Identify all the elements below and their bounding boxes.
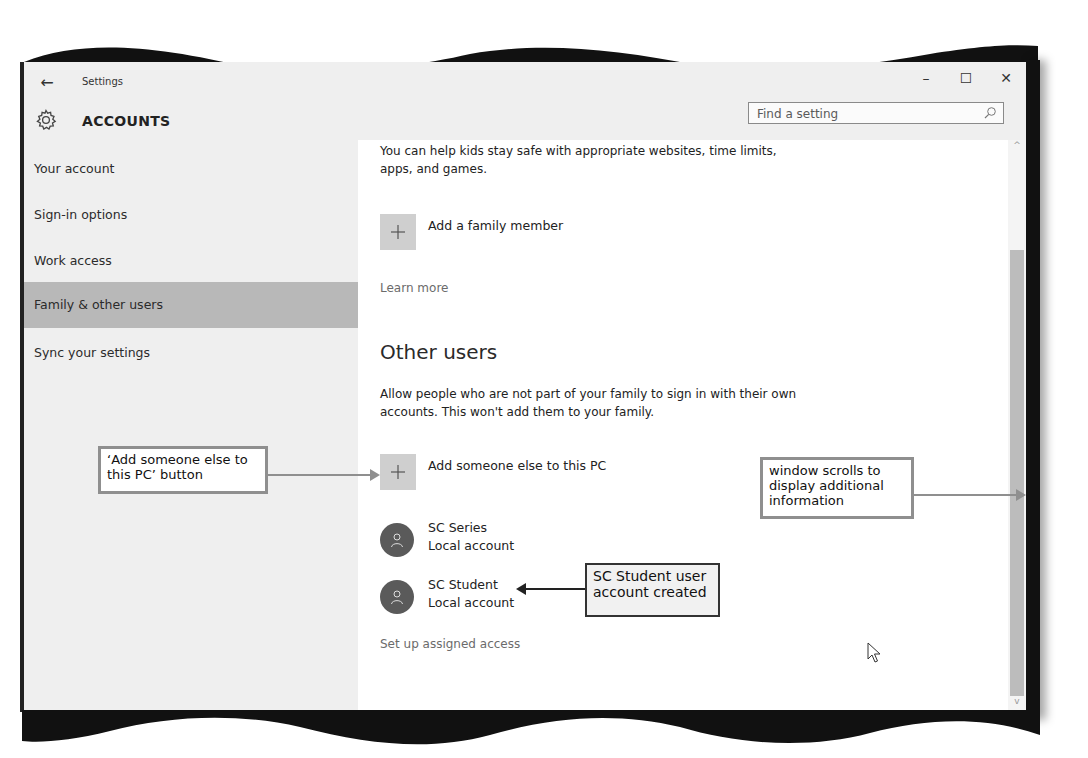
search-box[interactable]	[748, 102, 1004, 124]
add-family-member-button[interactable]	[380, 214, 416, 250]
user-name[interactable]: SC Series	[428, 520, 487, 535]
window-controls: – ☐ ✕	[906, 66, 1026, 90]
user-account-type: Local account	[428, 595, 514, 610]
maximize-icon: ☐	[960, 70, 973, 86]
title-bar: ← Settings – ☐ ✕	[24, 62, 1026, 102]
sidebar-item-work-access[interactable]: Work access	[24, 238, 358, 284]
settings-window: ← Settings – ☐ ✕ ACCOUNTS	[24, 62, 1026, 710]
user-icon	[389, 589, 405, 605]
close-button[interactable]: ✕	[986, 66, 1026, 90]
plus-icon	[390, 464, 406, 480]
arrow-head-icon	[370, 469, 380, 481]
search-input[interactable]	[755, 105, 979, 123]
section-title: ACCOUNTS	[82, 113, 170, 129]
close-icon: ✕	[1000, 70, 1012, 86]
vertical-scrollbar[interactable]: ^ v	[1008, 140, 1026, 710]
sidebar: Your account Sign-in options Work access…	[24, 140, 358, 710]
page-header: ACCOUNTS	[24, 102, 1026, 140]
add-someone-else-label[interactable]: Add someone else to this PC	[428, 458, 606, 473]
minimize-icon: –	[923, 70, 930, 86]
arrow-head-icon	[516, 583, 526, 595]
callout-window-scrolls: window scrolls to display additional inf…	[760, 457, 914, 519]
plus-icon	[390, 224, 406, 240]
avatar[interactable]	[380, 580, 414, 614]
add-someone-else-button[interactable]	[380, 454, 416, 490]
minimize-button[interactable]: –	[906, 66, 946, 90]
app-title: Settings	[82, 76, 123, 87]
main-content: You can help kids stay safe with appropr…	[358, 140, 1008, 710]
arrow-head-icon	[1016, 489, 1026, 501]
callout-arrow-line	[914, 494, 1018, 496]
scroll-up-icon[interactable]: ^	[1010, 140, 1024, 154]
scrollbar-thumb[interactable]	[1010, 250, 1024, 696]
callout-arrow-line	[268, 474, 372, 476]
maximize-button[interactable]: ☐	[946, 66, 986, 90]
user-name[interactable]: SC Student	[428, 577, 498, 592]
search-icon[interactable]	[983, 106, 997, 120]
other-users-description: Allow people who are not part of your fa…	[380, 385, 800, 421]
user-account-type: Local account	[428, 538, 514, 553]
learn-more-link[interactable]: Learn more	[380, 281, 448, 295]
back-button[interactable]: ←	[32, 72, 62, 94]
callout-arrow-line	[526, 588, 585, 590]
sidebar-item-your-account[interactable]: Your account	[24, 146, 358, 192]
callout-student-created: SC Student user account created	[585, 563, 720, 617]
frame-bottom-edge	[0, 705, 1088, 758]
user-icon	[389, 532, 405, 548]
add-family-member-label[interactable]: Add a family member	[428, 218, 563, 233]
other-users-heading: Other users	[380, 340, 497, 364]
sidebar-item-sign-in-options[interactable]: Sign-in options	[24, 192, 358, 238]
sidebar-item-sync-settings[interactable]: Sync your settings	[24, 330, 358, 376]
mouse-cursor-icon	[867, 642, 883, 664]
assigned-access-link[interactable]: Set up assigned access	[380, 637, 520, 651]
sidebar-item-family-other-users[interactable]: Family & other users	[24, 282, 358, 328]
back-arrow-icon: ←	[40, 73, 53, 92]
family-description: You can help kids stay safe with appropr…	[380, 142, 800, 178]
frame-right-edge	[1024, 60, 1040, 720]
gear-icon	[34, 108, 58, 132]
avatar[interactable]	[380, 523, 414, 557]
callout-add-someone: ‘Add someone else to this PC’ button	[98, 446, 268, 494]
